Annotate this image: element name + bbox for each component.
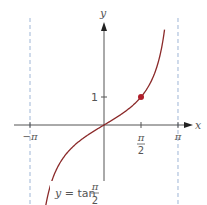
y-axis: y (99, 7, 107, 205)
y-tick-label: 1 (91, 91, 98, 104)
curve-label: y = tanπ2 (50, 181, 105, 205)
highlight-point (138, 94, 144, 100)
curve-label-den: 2 (92, 195, 98, 205)
x-tick-label: −π (23, 131, 38, 142)
x-tick-label-num: π (137, 132, 145, 143)
tan-curve (46, 30, 165, 205)
curve-label-num: π (91, 181, 99, 192)
axis-ticks: −ππ2π1 (23, 91, 182, 156)
curve-label-text: y = tan (54, 187, 95, 200)
x-axis-arrow-icon (184, 122, 193, 128)
x-tick-label-den: 2 (138, 145, 144, 156)
y-axis-label: y (99, 7, 107, 20)
tangent-chart: x y −ππ2π1 y = tanπ2 (0, 0, 207, 205)
x-axis-label: x (195, 119, 202, 132)
x-tick-label: π (174, 131, 182, 142)
y-axis-arrow-icon (101, 22, 107, 31)
